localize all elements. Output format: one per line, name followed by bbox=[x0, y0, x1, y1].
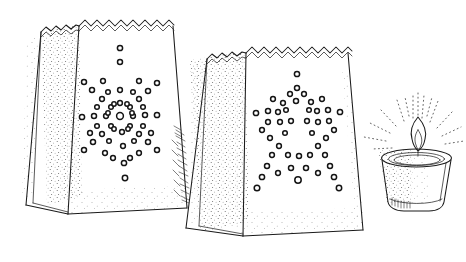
luminaria-bag-left bbox=[20, 20, 189, 220]
line-art-drawing bbox=[0, 0, 466, 262]
bag-left-front-panel bbox=[68, 26, 187, 214]
illustration-canvas: Luminaria Paper Bags with Votive Candle … bbox=[0, 0, 466, 262]
luminaria-bag-right bbox=[180, 45, 364, 245]
